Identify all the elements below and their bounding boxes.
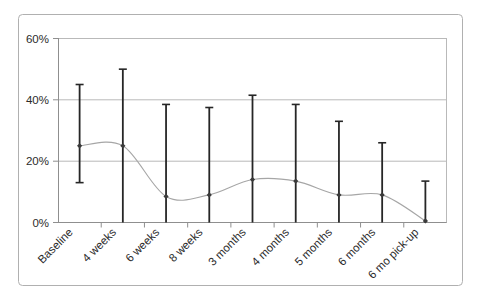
chart-figure: 60% 40% 20% 0% Baseline4 weeks6 weeks8 w… <box>0 0 480 301</box>
y-tick-label-20: 20% <box>26 155 49 167</box>
y-tick-label-40: 40% <box>26 94 49 106</box>
y-tick-label-0: 0% <box>32 217 49 229</box>
y-tick-label-60: 60% <box>26 33 49 45</box>
chart-container: 60% 40% 20% 0% Baseline4 weeks6 weeks8 w… <box>0 0 480 301</box>
